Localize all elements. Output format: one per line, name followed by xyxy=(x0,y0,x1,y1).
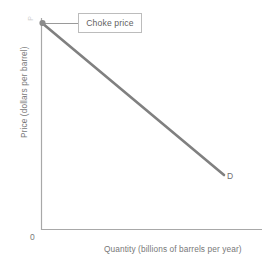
origin-label: 0 xyxy=(30,232,35,242)
chart-plot-area xyxy=(0,0,279,264)
x-axis-label: Quantity (billions of barrels per year) xyxy=(104,245,242,253)
choke-price-point-marker xyxy=(39,20,45,26)
y-intercept-label: P xyxy=(27,16,34,21)
demand-curve-chart: P Choke price D 0 Price (dollars per bar… xyxy=(0,0,279,264)
choke-price-callout-label: Choke price xyxy=(86,18,134,28)
demand-curve-label: D xyxy=(227,171,233,181)
demand-curve-line xyxy=(42,23,224,175)
choke-price-callout-box: Choke price xyxy=(78,13,142,33)
y-axis-label: Price (dollars per barrel) xyxy=(20,32,28,152)
